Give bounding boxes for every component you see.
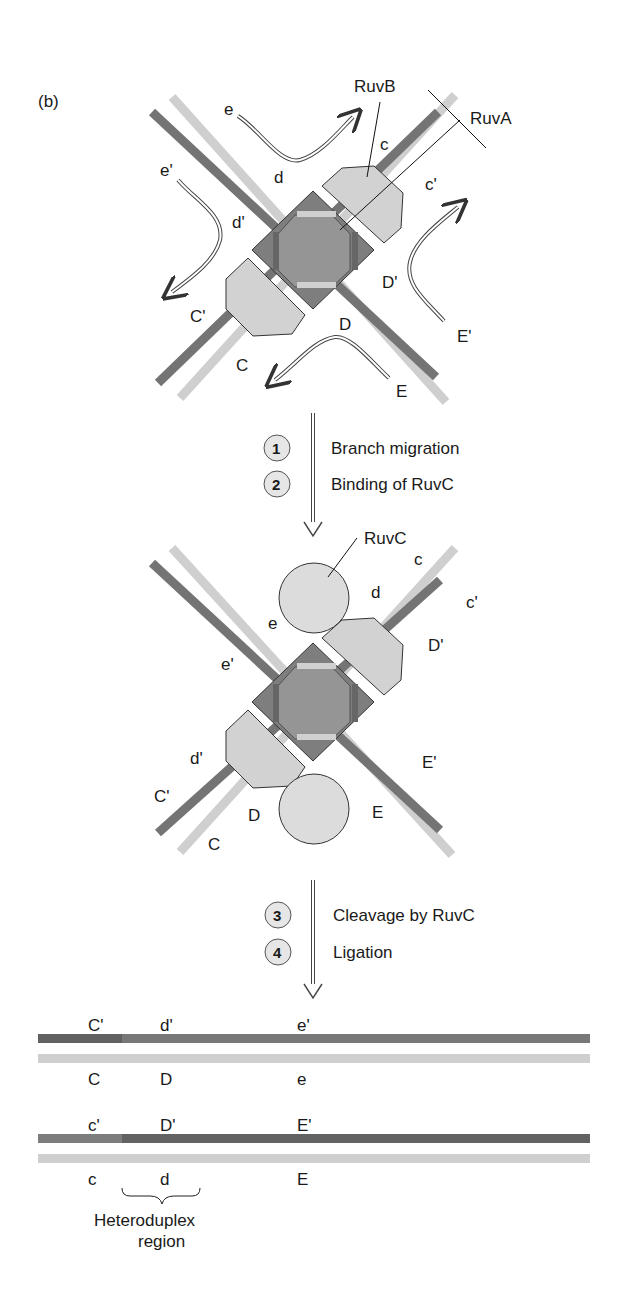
dup1-bottom-label: D [160, 1070, 172, 1089]
dup1-top-label: C' [88, 1016, 104, 1035]
label-C-2: C [208, 835, 220, 854]
label-D: D [339, 315, 351, 334]
label-e: e [224, 100, 233, 119]
label-c-prime-2: c' [466, 593, 478, 612]
dup2-bottom-label: E [297, 1170, 308, 1189]
step-number: 2 [272, 476, 280, 493]
label-ruvc: RuvC [364, 529, 407, 548]
step-2: 2 Binding of RuvC [264, 471, 454, 497]
step-label: Branch migration [331, 439, 460, 458]
label-d-prime-2: d' [190, 749, 203, 768]
label-c: c [380, 135, 389, 154]
label-C-prime: C' [190, 307, 206, 326]
label-E-prime: E' [457, 327, 472, 346]
dup1-bottom-label: C [88, 1070, 100, 1089]
ruvc-lower [279, 774, 349, 844]
step-number: 4 [273, 944, 282, 961]
dup2-top-label: c' [88, 1116, 100, 1135]
label-E: E [396, 382, 407, 401]
stage1-junction [152, 90, 486, 402]
dup1-bottom-label: e [297, 1070, 306, 1089]
label-c-prime: c' [425, 175, 437, 194]
panel-label: (b) [38, 92, 59, 111]
step-3: 3 Cleavage by RuvC [265, 902, 475, 928]
label-ruva: RuvA [470, 109, 512, 128]
step-1: 1 Branch migration [264, 435, 460, 461]
step-4: 4 Ligation [265, 939, 393, 965]
stage2-junction [152, 538, 455, 855]
label-ruvb: RuvB [354, 77, 396, 96]
label-d: d [274, 168, 283, 187]
product-duplex-2 [38, 1134, 590, 1163]
label-D-prime: D' [382, 273, 398, 292]
step-label: Ligation [333, 943, 393, 962]
step-label: Cleavage by RuvC [333, 906, 475, 925]
product-duplex-1 [38, 1034, 590, 1063]
label-E-prime-2: E' [422, 753, 437, 772]
step-number: 3 [273, 907, 281, 924]
label-D-2: D [248, 806, 260, 825]
heteroduplex-label-line2: region [138, 1232, 185, 1251]
label-d-prime: d' [232, 213, 245, 232]
dup2-top-label: D' [160, 1116, 176, 1135]
step-arrow-2 [304, 880, 322, 998]
label-D-prime-2: D' [428, 636, 444, 655]
dup2-bottom-label: d [160, 1170, 169, 1189]
ruvc-upper [279, 563, 349, 633]
label-e-prime: e' [160, 161, 173, 180]
step-label: Binding of RuvC [331, 475, 454, 494]
holliday-junction-diagram: (b) RuvB RuvA [0, 0, 623, 1306]
label-C: C [236, 356, 248, 375]
label-e-prime-2: e' [221, 655, 234, 674]
step-number: 1 [272, 440, 280, 457]
dup2-top-label: E' [297, 1116, 312, 1135]
heteroduplex-brace [122, 1188, 200, 1204]
label-e-2: e [268, 614, 277, 633]
dup1-top-label: e' [297, 1016, 310, 1035]
dup1-top-label: d' [160, 1016, 173, 1035]
label-d-2: d [371, 583, 380, 602]
label-c-2: c [414, 550, 423, 569]
dup2-bottom-label: c [88, 1170, 97, 1189]
label-C-prime-2: C' [154, 787, 170, 806]
step-arrow-1 [304, 413, 322, 536]
label-E-2: E [372, 803, 383, 822]
heteroduplex-label-line1: Heteroduplex [94, 1211, 196, 1230]
